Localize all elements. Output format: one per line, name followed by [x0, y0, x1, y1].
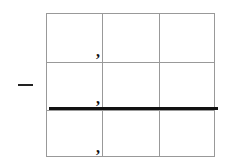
comma-row-1: , [96, 44, 100, 60]
comma-row-3: , [96, 140, 100, 156]
grid-vline-2 [159, 14, 160, 156]
grid-3x3 [46, 13, 215, 157]
thick-horizontal-line [49, 107, 218, 110]
grid-vline-1 [102, 14, 103, 156]
grid-hline-1 [47, 62, 214, 63]
minus-mark [18, 84, 33, 86]
comma-row-2: , [96, 91, 100, 107]
grid-hline-2 [47, 110, 214, 111]
